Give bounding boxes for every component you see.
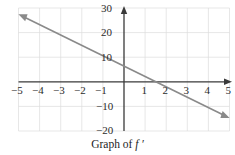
line-arrowhead-left [18,14,27,21]
x-tick-label-3: 3 [184,85,190,96]
x-tick-label-2: 2 [163,85,169,96]
x-tick-label-neg1: −1 [95,85,107,96]
coordinate-plane [0,0,235,155]
figure-caption: Graph of f ′ [0,138,235,151]
figure-graph-of-f-prime: 30 20 10 −10 −20 −5 −4 −3 −2 −1 1 2 3 4 … [0,0,235,155]
line-arrowhead-right [220,111,229,118]
y-tick-label-10: 10 [101,52,112,63]
y-tick-label-30: 30 [101,3,112,14]
x-tick-label-neg3: −3 [53,85,65,96]
x-tick-label-5: 5 [226,85,232,96]
x-tick-label-neg2: −2 [74,85,86,96]
y-axis-arrowhead [121,6,127,14]
caption-prefix: Graph of [91,138,135,150]
y-tick-label-neg10: −10 [96,101,113,112]
x-tick-label-1: 1 [142,85,148,96]
x-tick-label-neg4: −4 [32,85,44,96]
y-tick-label-neg20: −20 [96,125,113,136]
y-tick-label-20: 20 [101,27,112,38]
y-axis [121,6,127,131]
caption-function-symbol: f ′ [135,138,144,150]
x-axis [19,79,233,85]
x-tick-label-neg5: −5 [11,85,23,96]
x-tick-label-4: 4 [205,85,211,96]
